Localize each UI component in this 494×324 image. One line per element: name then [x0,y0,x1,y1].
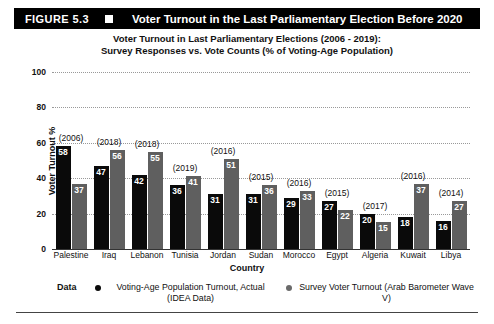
y-tick-label: 80 [16,102,46,112]
bar-actual: 29 [284,198,299,249]
chart-title-line2: Survey Responses vs. Vote Counts (% of V… [0,45,494,57]
figure-container: FIGURE 5.3 Voter Turnout in the Last Par… [0,0,494,324]
year-annotation: (2015) [249,172,274,182]
x-tick-label: Kuwait [394,250,432,263]
year-annotation: (2019) [173,163,198,173]
bar-group: (2014)1627 [432,72,470,249]
bottom-divider [16,312,478,313]
bar-survey: 37 [414,184,429,249]
bar-value-label: 27 [322,202,337,212]
white-square-icon [105,15,113,23]
bar-survey: 15 [376,222,391,249]
bar-value-label: 41 [186,177,201,187]
bar-value-label: 56 [110,151,125,161]
bar-group: (2016)3151 [204,72,242,249]
bar-value-label: 29 [284,199,299,209]
x-tick-label: Jordan [204,250,242,263]
bar-actual: 47 [94,166,109,249]
bar-group: (2006)5837 [52,72,90,249]
legend-item-survey-label: Survey Voter Turnout (Arab Barometer Wav… [297,282,476,304]
bar-value-label: 18 [398,218,413,228]
bar-value-label: 51 [224,160,239,170]
bar-group: (2018)4756 [90,72,128,249]
bar-actual: 58 [56,146,71,249]
bar-value-label: 42 [132,176,147,186]
bar-value-label: 36 [262,186,277,196]
year-annotation: (2016) [287,178,312,188]
chart-legend: Data Voting-Age Population Turnout, Actu… [0,282,494,308]
year-annotation: (2006) [59,133,84,143]
x-tick-label: Algeria [356,250,394,263]
x-tick-label: Sudan [242,250,280,263]
bar-actual: 36 [170,185,185,249]
bar-value-label: 37 [72,185,87,195]
x-axis-title: Country [0,263,494,273]
year-annotation: (2016) [211,146,236,156]
figure-header-title: Voter Turnout in the Last Parliamentary … [132,13,463,25]
plot-area: Voter Turnout % (2006)5837(2018)4756(201… [52,72,470,249]
legend-item-actual: Voting-Age Population Turnout, Actual (I… [95,282,275,304]
figure-number: FIGURE 5.3 [25,13,89,25]
legend-item-survey: Survey Voter Turnout (Arab Barometer Wav… [286,282,476,304]
y-tick-label: 0 [16,244,46,254]
bar-survey: 36 [262,185,277,249]
bar-survey: 37 [72,184,87,249]
bar-group: (2016)2933 [280,72,318,249]
bar-survey: 51 [224,159,239,249]
bar-value-label: 36 [170,186,185,196]
y-tick-label: 20 [16,209,46,219]
bar-survey: 55 [148,152,163,249]
x-tick-label: Tunisia [166,250,204,263]
bar-actual: 42 [132,175,147,249]
bar-value-label: 27 [452,202,467,212]
bar-value-label: 33 [300,192,315,202]
chart-title-block: Voter Turnout in Last Parliamentary Elec… [0,33,494,56]
x-tick-label: Morocco [280,250,318,263]
bar-survey: 41 [186,176,201,249]
bar-group: (2016)1837 [394,72,432,249]
x-axis-ticklabels: PalestineIraqLebanonTunisiaJordanSudanMo… [52,250,470,263]
bar-actual: 31 [246,194,261,249]
bar-actual: 31 [208,194,223,249]
bar-value-label: 22 [338,211,353,221]
bar-survey: 22 [338,210,353,249]
bar-value-label: 16 [436,222,451,232]
bar-value-label: 20 [360,215,375,225]
year-annotation: (2014) [439,188,464,198]
bar-actual: 20 [360,214,375,249]
x-tick-label: Libya [432,250,470,263]
year-annotation: (2017) [363,201,388,211]
bar-group: (2015)3136 [242,72,280,249]
x-tick-label: Iraq [90,250,128,263]
year-annotation: (2016) [401,171,426,181]
black-dot-icon [95,285,101,291]
bar-value-label: 37 [414,185,429,195]
year-annotation: (2015) [325,188,350,198]
bar-value-label: 55 [148,153,163,163]
bar-actual: 18 [398,217,413,249]
x-tick-label: Lebanon [128,250,166,263]
year-annotation: (2018) [97,137,122,147]
bar-groups: (2006)5837(2018)4756(2018)4255(2019)3641… [52,72,470,249]
y-tick-label: 40 [16,173,46,183]
bar-value-label: 15 [376,223,391,233]
gray-dot-icon [286,285,292,291]
figure-header-bar: FIGURE 5.3 Voter Turnout in the Last Par… [14,8,480,29]
bar-survey: 56 [110,150,125,249]
bar-value-label: 31 [246,195,261,205]
x-tick-label: Egypt [318,250,356,263]
legend-series-label: Data [57,282,77,292]
bar-group: (2015)2722 [318,72,356,249]
bar-value-label: 31 [208,195,223,205]
y-tick-label: 100 [16,67,46,77]
year-annotation: (2018) [135,139,160,149]
bar-value-label: 47 [94,167,109,177]
bar-survey: 33 [300,191,315,249]
bar-actual: 16 [436,221,451,249]
chart-title-line1: Voter Turnout in Last Parliamentary Elec… [0,33,494,45]
bar-survey: 27 [452,201,467,249]
legend-item-actual-label: Voting-Age Population Turnout, Actual (I… [106,282,275,304]
bar-group: (2018)4255 [128,72,166,249]
bar-group: (2019)3641 [166,72,204,249]
bar-actual: 27 [322,201,337,249]
